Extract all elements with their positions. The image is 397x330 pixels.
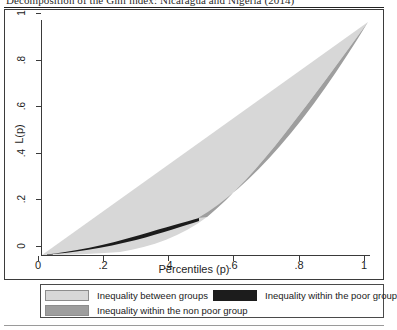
legend-label-within-non-poor-group: Inequality within the non poor group (97, 305, 248, 316)
lorenz-band-svg (42, 22, 368, 255)
y-tick-label-0.8-text: .8 (17, 47, 27, 73)
page-bottom-divider (4, 325, 384, 326)
legend-swatch-within-non-poor-group (45, 305, 89, 316)
legend-label-within-poor-group: Inequality within the poor group (265, 290, 397, 301)
y-tick-label-0.8: .8 (9, 55, 35, 65)
y-tick-0.6 (36, 106, 41, 107)
y-tick-0.4 (36, 153, 41, 154)
caption-divider (4, 7, 384, 8)
legend-swatch-within-poor-group (213, 290, 257, 301)
y-tick-label-1-text: 1 (17, 0, 27, 26)
plot-frame: 0 .2 .4 .6 .8 1 0 .2 .4 .6 .8 1 L(p) (4, 9, 384, 280)
legend-item-within-poor-group: Inequality within the poor group (213, 288, 397, 302)
y-tick-label-0-text: 0 (17, 233, 27, 259)
y-tick-label-0.2-text: .2 (17, 186, 27, 212)
y-tick-0 (36, 246, 41, 247)
y-axis-line (41, 20, 42, 256)
legend-swatch-between-groups (45, 290, 89, 301)
legend-column-right: Inequality within the poor group (213, 288, 397, 303)
chart-legend: Inequality between groups Inequality wit… (40, 284, 384, 318)
y-tick-1 (36, 13, 41, 14)
legend-item-within-non-poor-group: Inequality within the non poor group (45, 303, 248, 317)
y-tick-0.8 (36, 60, 41, 61)
x-axis-title: Percentiles (p) (0, 263, 388, 275)
y-tick-label-1: 1 (9, 8, 35, 18)
chart-plot-area (42, 22, 368, 255)
figure-caption-text: Decomposition of the Gini index: Nicarag… (6, 0, 294, 6)
y-tick-label-0: 0 (9, 241, 35, 251)
area-inequality-between-groups (42, 22, 368, 255)
y-tick-0.2 (36, 199, 41, 200)
y-tick-label-0.2: .2 (9, 194, 35, 204)
y-axis-title: L(p) (13, 104, 25, 164)
legend-label-between-groups: Inequality between groups (97, 290, 208, 301)
x-axis-line (41, 255, 370, 256)
